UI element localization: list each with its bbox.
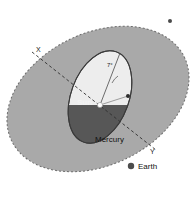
inclination-angle-label: 7° bbox=[107, 62, 113, 68]
earth-marker bbox=[128, 163, 134, 169]
mercury-label: Mercury bbox=[95, 136, 124, 144]
sun-marker bbox=[97, 102, 102, 107]
node-label-x: X bbox=[36, 46, 41, 53]
sun-label: Sun bbox=[77, 99, 92, 107]
node-label-y: Y bbox=[150, 148, 155, 155]
mercury-inclination-diagram bbox=[0, 0, 196, 205]
mercury-marker bbox=[126, 94, 130, 98]
earth-label: Earth bbox=[138, 163, 157, 171]
ecliptic-edge-marker bbox=[168, 19, 172, 23]
